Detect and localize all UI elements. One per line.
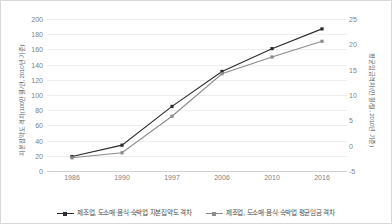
series-line-1 (72, 41, 322, 158)
x-axis-tick: 2016 (314, 174, 330, 181)
y-axis-left-tick: 100 (31, 92, 43, 99)
gridline (47, 171, 347, 172)
y-axis-left-tick: 0 (39, 168, 43, 175)
y-axis-left-tick: 80 (35, 107, 43, 114)
chart-container: 자본집약도 격차(100만 원/인, 2010년 기준) 평균임금격차(만 원/… (0, 0, 392, 224)
legend-label: 제조업, 도소매·음식·숙박업 자본집약도 격차 (77, 210, 192, 217)
plot-area (47, 19, 347, 171)
legend-marker-icon (57, 210, 74, 217)
y-axis-right-tick: 0 (349, 142, 353, 149)
y-axis-left-tick: 120 (31, 76, 43, 83)
data-point-marker (170, 105, 173, 108)
y-axis-left-tick: 160 (31, 46, 43, 53)
chart-legend: 제조업, 도소매·음식·숙박업 자본집약도 격차제조업, 도소매·음식·숙박업 … (1, 210, 391, 217)
legend-label: 제조업, 도소매·음식·숙박업 평균임금 격차 (226, 210, 335, 217)
y-axis-right-tick: 20 (349, 41, 357, 48)
legend-item-1[interactable]: 제조업, 도소매·음식·숙박업 평균임금 격차 (206, 210, 335, 217)
y-axis-right-tick: 25 (349, 16, 357, 23)
x-axis-ticks: 198619901997200620102016 (47, 174, 347, 188)
y-axis-right-tick: -5 (349, 168, 355, 175)
x-axis-tick: 2010 (264, 174, 280, 181)
x-axis-tick: 1986 (64, 174, 80, 181)
y-axis-left-tick: 40 (35, 137, 43, 144)
y-axis-left-tick: 60 (35, 122, 43, 129)
data-point-marker (270, 47, 273, 50)
data-point-marker (70, 156, 73, 159)
data-point-marker (270, 55, 273, 58)
legend-marker-icon (206, 210, 223, 217)
data-point-marker (170, 115, 173, 118)
y-axis-right-tick: 5 (349, 117, 353, 124)
y-axis-right-tick: 15 (349, 66, 357, 73)
y-axis-left-tick: 180 (31, 31, 43, 38)
y-axis-left-tick: 20 (35, 152, 43, 159)
x-axis-tick: 1990 (114, 174, 130, 181)
y-axis-right-ticks: 2520151050-5 (349, 19, 371, 171)
data-point-marker (220, 72, 223, 75)
series-lines (47, 19, 347, 171)
x-axis-tick: 2006 (214, 174, 230, 181)
series-line-0 (72, 29, 322, 157)
legend-item-0[interactable]: 제조업, 도소매·음식·숙박업 자본집약도 격차 (57, 210, 192, 217)
y-axis-left-ticks: 200180160140120100806040200 (21, 19, 43, 171)
data-point-marker (320, 40, 323, 43)
data-point-marker (320, 27, 323, 30)
data-point-marker (120, 144, 123, 147)
y-axis-right-tick: 10 (349, 92, 357, 99)
data-point-marker (120, 151, 123, 154)
y-axis-left-tick: 200 (31, 16, 43, 23)
x-axis-tick: 1997 (164, 174, 180, 181)
y-axis-left-tick: 140 (31, 61, 43, 68)
